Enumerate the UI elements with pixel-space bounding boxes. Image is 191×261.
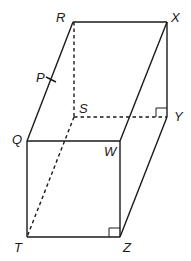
label-X: X [170, 10, 181, 25]
edge-RQ [27, 22, 73, 141]
label-Q: Q [12, 132, 22, 147]
label-Z: Z [122, 240, 132, 255]
right-angle-mark-Z [109, 228, 120, 237]
edge-YZ [120, 117, 167, 237]
label-P: P [36, 70, 45, 85]
label-W: W [104, 144, 118, 159]
label-S: S [79, 101, 88, 116]
label-T: T [14, 240, 23, 255]
hidden-edge-ST [27, 117, 74, 237]
label-Y: Y [174, 109, 184, 124]
label-R: R [56, 10, 65, 25]
right-angle-mark-Y [156, 108, 167, 117]
prism-diagram: R X Y S P Q W T Z [0, 0, 191, 261]
edge-XW [120, 22, 167, 141]
